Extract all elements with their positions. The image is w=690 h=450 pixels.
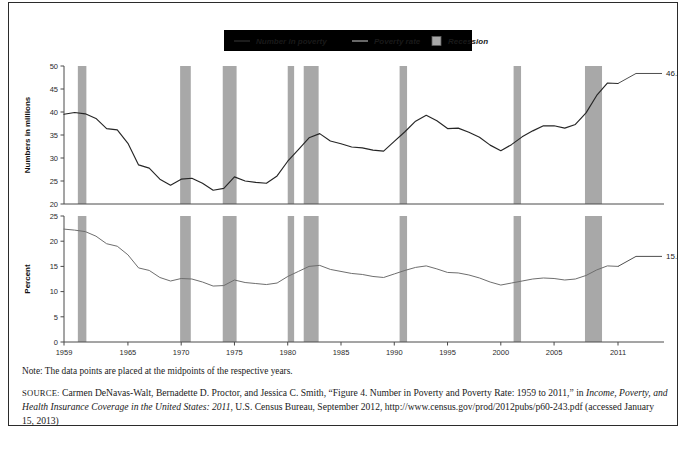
y-tick-label-number-in-poverty-45: 45: [50, 85, 58, 94]
y-tick-label-number-in-poverty-25: 25: [50, 177, 58, 186]
recession-band-4: [304, 216, 319, 342]
y-tick-label-number-in-poverty-40: 40: [50, 108, 58, 117]
y-tick-label-poverty-rate-25: 25: [50, 212, 58, 221]
y-tick-label-poverty-rate-5: 5: [54, 313, 58, 322]
x-tick-label-1985: 1985: [333, 348, 350, 357]
legend-swatch-recession: [432, 37, 441, 46]
y-tick-label-number-in-poverty-30: 30: [50, 154, 58, 163]
chart-area: Number in povertyPoverty rateRecession20…: [8, 2, 678, 426]
recession-band-3: [288, 216, 294, 342]
recession-band-7: [585, 216, 602, 342]
x-tick-label-1959: 1959: [56, 348, 73, 357]
recession-band-6: [514, 66, 521, 204]
annotation-label-number-in-poverty: 46.2 million: [666, 69, 678, 78]
series-number-in-poverty: [64, 83, 618, 190]
figure-source: SOURCE: Carmen DeNavas-Walt, Bernadette …: [22, 386, 668, 427]
x-tick-label-1995: 1995: [439, 348, 456, 357]
y-axis-title-number-in-poverty: Numbers in millions: [23, 96, 32, 173]
legend-label-2: Recession: [448, 37, 488, 46]
y-tick-label-number-in-poverty-35: 35: [50, 131, 58, 140]
x-tick-label-2000: 2000: [492, 348, 509, 357]
x-tick-label-2011: 2011: [610, 348, 626, 357]
x-tick-label-2005: 2005: [546, 348, 563, 357]
annotation-label-poverty-rate: 15.0 percent: [666, 252, 678, 261]
y-tick-label-poverty-rate-15: 15: [50, 262, 58, 271]
source-label: SOURCE:: [22, 388, 60, 398]
source-body: Carmen DeNavas-Walt, Bernadette D. Proct…: [22, 387, 668, 426]
recession-band-5: [400, 216, 407, 342]
recession-band-2: [223, 216, 237, 342]
legend-label-0: Number in poverty: [256, 37, 327, 46]
recession-band-7: [585, 66, 602, 204]
y-tick-label-poverty-rate-0: 0: [54, 338, 58, 347]
recession-band-3: [288, 66, 294, 204]
x-tick-label-1990: 1990: [386, 348, 403, 357]
panel-poverty-rate: 0510152025Percent19591965197019751980198…: [23, 212, 678, 357]
y-tick-label-poverty-rate-10: 10: [50, 287, 58, 296]
x-tick-label-1980: 1980: [279, 348, 296, 357]
recession-band-2: [223, 66, 237, 204]
poverty-chart-svg: Number in povertyPoverty rateRecession20…: [8, 2, 678, 426]
x-tick-label-1970: 1970: [173, 348, 190, 357]
y-axis-title-poverty-rate: Percent: [23, 264, 32, 294]
recession-band-6: [514, 216, 521, 342]
recession-band-1: [180, 66, 191, 204]
x-tick-label-1975: 1975: [226, 348, 243, 357]
figure-note: Note: The data points are placed at the …: [22, 366, 662, 376]
recession-band-0: [78, 66, 87, 204]
panel-number-in-poverty: 20253035404550Numbers in millions46.2 mi…: [23, 62, 678, 209]
series-poverty-rate: [64, 229, 618, 286]
source-segment-0: Carmen DeNavas-Walt, Bernadette D. Proct…: [62, 387, 586, 398]
annotation-leader-number-in-poverty: [618, 73, 662, 83]
chart-legend: Number in povertyPoverty rateRecession: [224, 30, 488, 51]
y-tick-label-number-in-poverty-50: 50: [50, 62, 58, 71]
legend-label-1: Poverty rate: [374, 37, 421, 46]
y-tick-label-poverty-rate-20: 20: [50, 237, 58, 246]
y-tick-label-number-in-poverty-20: 20: [50, 200, 58, 209]
recession-band-0: [78, 216, 87, 342]
x-tick-label-1965: 1965: [120, 348, 137, 357]
annotation-leader-poverty-rate: [618, 256, 662, 266]
